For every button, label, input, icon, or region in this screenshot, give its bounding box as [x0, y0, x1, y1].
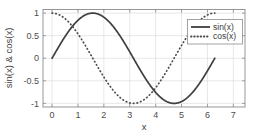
- y-tick-label: 0: [34, 53, 39, 63]
- y-axis-title: sin(x) & cos(x): [3, 28, 14, 89]
- x-tick-label: 3: [127, 110, 132, 120]
- x-tick-label: 0: [50, 110, 55, 120]
- x-tick-label: 1: [75, 110, 80, 120]
- x-tick-label: 6: [205, 110, 210, 120]
- legend-label-sin: sin(x): [213, 22, 234, 32]
- y-tick-label: 0.5: [26, 31, 39, 41]
- chart-legend[interactable]: sin(x) cos(x): [188, 20, 243, 45]
- legend-label-cos: cos(x): [213, 31, 236, 41]
- x-tick-label: 2: [101, 110, 106, 120]
- x-tick-label: 5: [179, 110, 184, 120]
- y-tick-label: -0.5: [23, 76, 39, 86]
- sine-cosine-line-chart: 01234567 10.50-0.5-1 x sin(x) & cos(x) s…: [0, 0, 260, 137]
- y-tick-label: 1: [34, 8, 39, 18]
- x-tick-label: 4: [153, 110, 158, 120]
- x-tick-label: 7: [231, 110, 236, 120]
- chart-figure: 01234567 10.50-0.5-1 x sin(x) & cos(x) s…: [0, 0, 260, 137]
- y-tick-label: -1: [31, 99, 39, 109]
- x-axis-title: x: [142, 121, 147, 132]
